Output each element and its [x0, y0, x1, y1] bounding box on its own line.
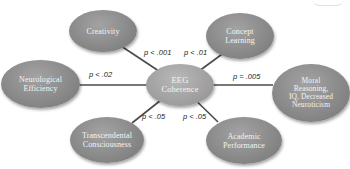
corner-decoration: [313, 0, 343, 6]
node-neurological-efficiency: Neurological Efficiency: [1, 60, 80, 108]
p-value-concept-learning: p < .01: [184, 48, 207, 57]
node-moral-reasoning: Moral Reasoning, IQ, Decreased Neurotici…: [272, 64, 350, 122]
node-transcendental-consciousness: Transcendental Consciousness: [70, 117, 144, 163]
p-value-creativity: p < .001: [144, 48, 171, 57]
node-creativity: Creativity: [69, 10, 137, 52]
p-value-moral-reasoning: p = .005: [233, 72, 260, 81]
p-value-academic-performance: p < .05: [183, 112, 206, 121]
p-value-neurological-efficiency: p < .02: [89, 70, 112, 79]
node-eeg-coherence: EEG Coherence: [146, 64, 214, 106]
p-value-transcendental-consciousness: p < .05: [142, 112, 165, 121]
node-concept-learning: Concept Learning: [206, 13, 274, 59]
node-academic-performance: Academic Performance: [206, 117, 282, 164]
